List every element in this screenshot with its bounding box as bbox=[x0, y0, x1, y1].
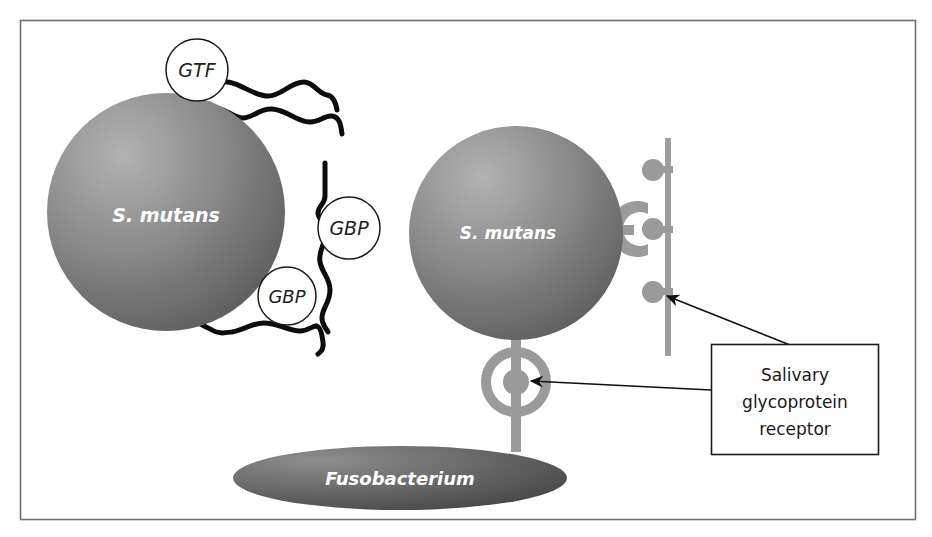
protein-label-gtf: GTF bbox=[178, 59, 216, 81]
protein-gtf-top: GTF bbox=[166, 39, 228, 101]
salivary-receptor-callout: Salivary glycoprotein receptor bbox=[712, 345, 879, 455]
receptor-ring-fuso bbox=[486, 330, 546, 452]
protein-label-gbp-middle: GBP bbox=[329, 217, 369, 239]
protein-gbp-middle: GBP bbox=[318, 197, 380, 259]
diagram-canvas: S. mutans S. mutans Fusobacterium GTF GB… bbox=[0, 0, 932, 537]
glucan-lower-tail bbox=[316, 326, 323, 354]
protein-label-gbp-lower: GBP bbox=[268, 286, 305, 307]
cell-label-s-mutans-right: S. mutans bbox=[460, 223, 556, 243]
cell-label-fusobacterium: Fusobacterium bbox=[325, 468, 475, 489]
protein-gbp-lower: GBP bbox=[258, 267, 316, 325]
callout-line-1: Salivary bbox=[761, 365, 829, 385]
callout-line-3: receptor bbox=[759, 419, 831, 439]
cell-label-s-mutans-left: S. mutans bbox=[112, 204, 220, 226]
cell-fusobacterium: Fusobacterium bbox=[233, 446, 567, 510]
arrow-to-surface-receptor bbox=[667, 296, 790, 345]
arrow-to-fuso-receptor bbox=[531, 381, 711, 390]
figure-root: S. mutans S. mutans Fusobacterium GTF GB… bbox=[0, 0, 932, 537]
cell-s-mutans-right: S. mutans bbox=[409, 126, 623, 340]
glucan-upper-strand bbox=[222, 82, 337, 110]
callout-line-2: glycoprotein bbox=[742, 392, 848, 412]
cell-s-mutans-left: S. mutans bbox=[47, 93, 285, 331]
